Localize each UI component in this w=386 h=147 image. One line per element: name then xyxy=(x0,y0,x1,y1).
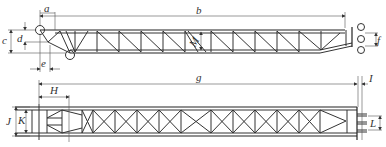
right-pin-top xyxy=(358,24,365,31)
dim-label-b: b xyxy=(196,4,202,16)
dim-label-K: K xyxy=(17,114,26,126)
dim-label-H: H xyxy=(49,84,59,96)
truss-web-side xyxy=(66,31,340,52)
dim-label-a: a xyxy=(44,2,50,14)
dim-label-d: d xyxy=(17,32,23,44)
right-pin-bottom xyxy=(358,47,365,54)
boom-diagram: a b c d e M f xyxy=(0,0,386,147)
dim-label-L: L xyxy=(369,117,376,129)
right-pin-mid xyxy=(358,36,365,43)
dim-label-c: c xyxy=(2,34,7,46)
dim-label-g: g xyxy=(196,71,202,83)
side-view: a b c d e M f xyxy=(2,2,382,72)
plan-view: g H I J K L xyxy=(6,71,382,142)
dim-label-e: e xyxy=(41,57,46,69)
dim-label-f: f xyxy=(377,34,382,46)
dim-label-I: I xyxy=(368,72,374,84)
dim-label-J: J xyxy=(6,115,12,127)
truss-web-plan xyxy=(82,110,346,133)
